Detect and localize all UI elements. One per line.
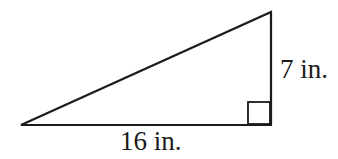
right-triangle-figure: 7 in. 16 in. [0,0,338,159]
right-triangle-svg: 7 in. 16 in. [0,0,338,159]
vertical-side-label: 7 in. [280,54,328,84]
base-side-label: 16 in. [120,126,182,156]
